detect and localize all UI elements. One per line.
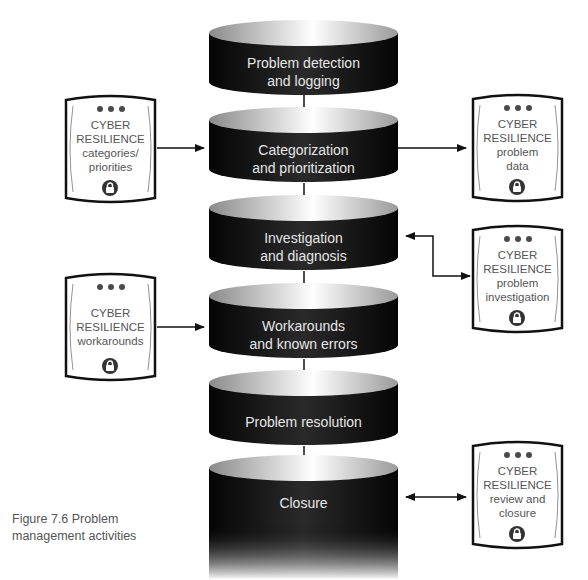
- figure-caption: Figure 7.6 Problem management activities: [12, 511, 136, 545]
- step-label: Problem detectionand logging: [209, 42, 398, 102]
- lock-icon: [102, 180, 118, 196]
- problem-management-diagram: Problem detectionand logging Categorizat…: [0, 0, 588, 580]
- lock-icon: [509, 310, 525, 326]
- step-problem-detection: Problem detectionand logging: [209, 20, 398, 108]
- card-review-closure: CYBER RESILIENCE review and closure: [471, 440, 564, 550]
- card-text: CYBER RESILIENCE problem data: [483, 117, 551, 195]
- dots-icon: [97, 106, 125, 112]
- step-investigation: Investigationand diagnosis: [209, 195, 398, 283]
- dots-icon: [504, 452, 532, 458]
- dots-icon: [504, 105, 532, 111]
- step-problem-resolution: Problem resolution: [209, 370, 398, 458]
- step-label: Categorizationand prioritization: [209, 129, 398, 189]
- arrow-investigation-bidirectional: [406, 236, 470, 276]
- step-label: Workaroundsand known errors: [209, 305, 398, 365]
- card-text: CYBER RESILIENCE workarounds: [76, 296, 144, 374]
- lock-icon: [509, 179, 525, 195]
- dots-icon: [97, 284, 125, 290]
- lock-icon: [509, 526, 525, 542]
- step-categorization: Categorizationand prioritization: [209, 107, 398, 195]
- card-problem-investigation: CYBER RESILIENCE problem investigation: [471, 224, 564, 334]
- card-workarounds: CYBER RESILIENCE workarounds: [64, 272, 157, 382]
- step-label: Investigationand diagnosis: [209, 217, 398, 277]
- lock-icon: [102, 358, 118, 374]
- dots-icon: [504, 236, 532, 242]
- card-text: CYBER RESILIENCE review and closure: [483, 464, 551, 542]
- step-workarounds: Workaroundsand known errors: [209, 283, 398, 371]
- step-label: Problem resolution: [209, 392, 398, 452]
- step-label: Closure: [209, 477, 398, 529]
- card-problem-data: CYBER RESILIENCE problem data: [471, 93, 564, 203]
- step-closure: Closure: [209, 455, 398, 580]
- card-categories-priorities: CYBER RESILIENCE categories/ priorities: [64, 94, 157, 204]
- card-text: CYBER RESILIENCE problem investigation: [483, 248, 551, 326]
- card-text: CYBER RESILIENCE categories/ priorities: [76, 118, 144, 196]
